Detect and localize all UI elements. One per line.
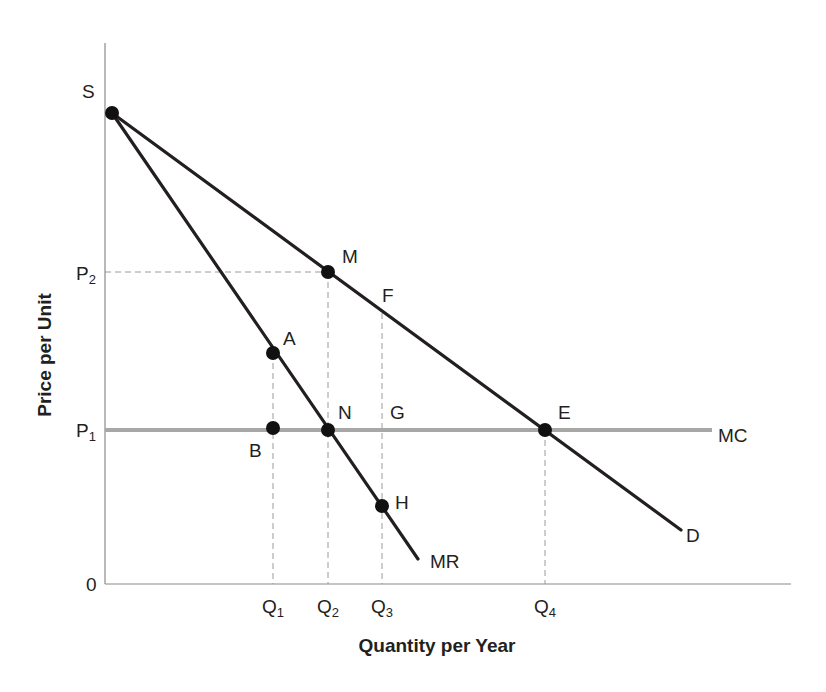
x-axis-title: Quantity per Year [359, 635, 517, 656]
mr-curve [112, 113, 418, 559]
label-n: N [338, 402, 352, 423]
label-a: A [283, 328, 296, 349]
tick-q4: Q4 [534, 596, 556, 620]
y-axis-title: Price per Unit [34, 293, 55, 417]
tick-p1: P1 [76, 420, 96, 444]
point-b [266, 421, 280, 435]
tick-q3-letter: Q [371, 596, 386, 617]
tick-q2-sub: 2 [332, 605, 339, 620]
tick-q2: Q2 [317, 596, 339, 620]
tick-q1-letter: Q [262, 596, 277, 617]
label-mr: MR [430, 551, 460, 572]
label-s: S [82, 81, 95, 102]
label-h: H [395, 492, 409, 513]
label-m: M [342, 246, 358, 267]
label-d: D [686, 525, 700, 546]
point-n [321, 423, 335, 437]
label-f: F [382, 285, 394, 306]
point-h [375, 499, 389, 513]
point-m [321, 265, 335, 279]
tick-q2-letter: Q [317, 596, 332, 617]
tick-q4-sub: 4 [549, 605, 556, 620]
tick-q1-sub: 1 [277, 605, 284, 620]
point-s [105, 106, 119, 120]
tick-q3: Q3 [371, 596, 393, 620]
label-b: B [249, 440, 262, 461]
tick-origin: 0 [86, 574, 97, 595]
label-e: E [558, 402, 571, 423]
tick-p1-sub: 1 [89, 429, 96, 444]
demand-curve [112, 113, 681, 530]
tick-q1: Q1 [262, 596, 284, 620]
tick-p2-letter: P [76, 263, 89, 284]
point-e [538, 423, 552, 437]
tick-p2: P2 [76, 263, 96, 287]
monopoly-pricing-chart: S M F A N G B E H MC MR D P2 P1 0 Q1 Q2 … [0, 0, 826, 692]
tick-p1-letter: P [76, 420, 89, 441]
tick-q3-sub: 3 [386, 605, 393, 620]
tick-p2-sub: 2 [89, 272, 96, 287]
point-a [266, 346, 280, 360]
label-g: G [390, 402, 405, 423]
label-mc: MC [718, 425, 748, 446]
tick-q4-letter: Q [534, 596, 549, 617]
